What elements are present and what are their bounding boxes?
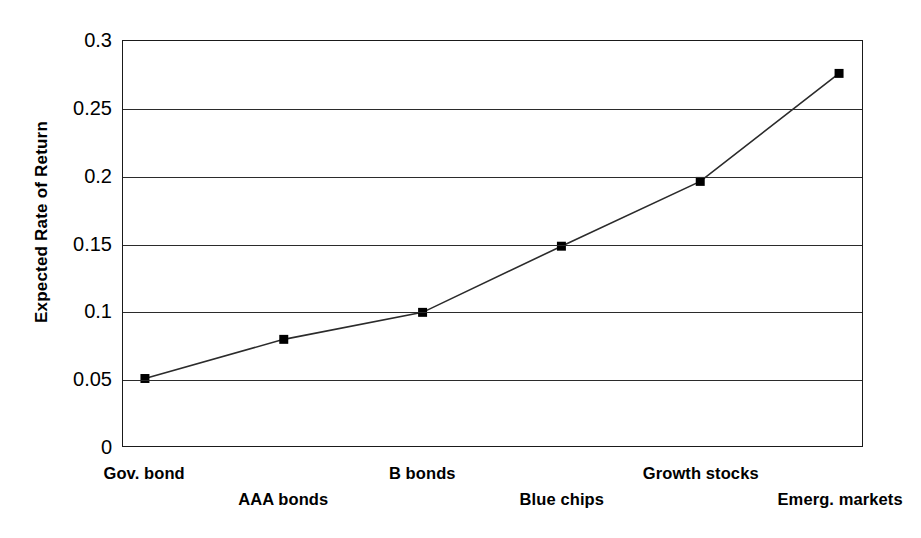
data-series-line xyxy=(123,41,862,446)
y-axis-tick-label: 0.05 xyxy=(48,369,112,389)
y-axis-tick-label: 0.25 xyxy=(48,98,112,118)
gridline xyxy=(123,312,862,313)
x-axis-category-label: Blue chips xyxy=(520,490,604,509)
plot-area xyxy=(122,40,863,447)
y-axis-tick-label: 0.15 xyxy=(48,234,112,254)
y-axis-tick-label: 0.3 xyxy=(48,30,112,50)
x-axis-category-label-group: Gov. bondAAA bondsB bondsBlue chipsGrowt… xyxy=(0,447,921,538)
data-point-marker xyxy=(835,69,844,78)
data-point-marker xyxy=(140,374,149,383)
x-axis-category-label: AAA bonds xyxy=(238,490,328,509)
gridline xyxy=(123,380,862,381)
y-axis-tick-label: 0.2 xyxy=(48,166,112,186)
x-axis-category-label: Gov. bond xyxy=(104,464,185,483)
chart-container: Expected Rate of Return 0.30.250.20.150.… xyxy=(0,0,921,538)
x-axis-category-label: Emerg. markets xyxy=(778,490,903,509)
data-point-marker xyxy=(557,242,566,251)
y-axis-tick-label: 0.1 xyxy=(48,301,112,321)
gridline xyxy=(123,109,862,110)
x-axis-category-label: Growth stocks xyxy=(643,464,759,483)
data-point-marker xyxy=(279,335,288,344)
gridline xyxy=(123,177,862,178)
gridline xyxy=(123,245,862,246)
data-point-marker xyxy=(696,177,705,186)
x-axis-category-label: B bonds xyxy=(389,464,456,483)
series-polyline xyxy=(145,73,839,378)
